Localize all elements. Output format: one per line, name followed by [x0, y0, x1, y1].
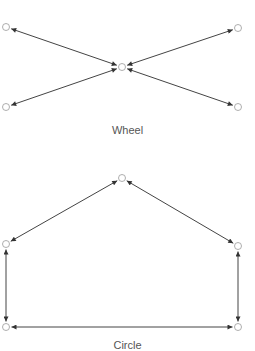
- circle-label: Circle: [0, 339, 255, 351]
- node-center: [119, 64, 126, 71]
- node-left: [3, 241, 10, 248]
- edge-top-left: [11, 181, 117, 242]
- node-top-left: [3, 24, 10, 31]
- edge-center-top-right: [127, 30, 233, 65]
- edge-top-right: [127, 181, 234, 243]
- wheel-label: Wheel: [0, 124, 255, 136]
- wheel-diagram: [3, 24, 242, 111]
- edge-center-bottom-right: [127, 69, 233, 105]
- node-bottom-right: [235, 104, 242, 111]
- node-right: [235, 243, 242, 250]
- node-bottom-left: [3, 324, 10, 331]
- edge-center-bottom-left: [11, 69, 117, 105]
- edge-center-top-left: [11, 29, 117, 65]
- node-top: [119, 175, 126, 182]
- node-top-right: [235, 25, 242, 32]
- node-bottom-right: [235, 324, 242, 331]
- node-bottom-left: [3, 104, 10, 111]
- circle-diagram: [3, 175, 242, 331]
